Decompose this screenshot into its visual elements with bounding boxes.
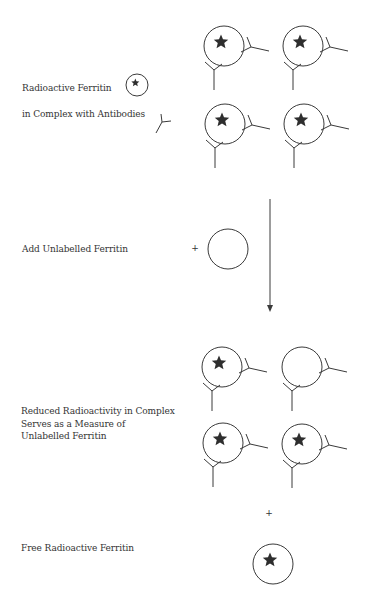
antibody-arm [161, 114, 162, 122]
antibody-arm [283, 460, 292, 468]
antibody-icon-bottom [206, 140, 223, 168]
legend-icons [126, 74, 171, 133]
antibody-ferritin-complex [282, 424, 347, 488]
antibody-icon-right [240, 434, 268, 449]
initial-complexes [204, 26, 349, 168]
antibody-arm [283, 383, 292, 391]
antibody-icon-bottom [284, 62, 301, 90]
antibody-arm [203, 383, 212, 391]
antibody-arm [325, 435, 329, 445]
radioactive-ferritin-icon [205, 104, 245, 144]
antibody-arm [248, 115, 252, 125]
radioactive-ferritin-icon [202, 347, 242, 387]
legend-radioactive-ferritin-icon [126, 74, 148, 96]
antibody-ferritin-complex [282, 347, 347, 411]
antibody-stem [251, 47, 269, 51]
antibody-icon-right [319, 358, 347, 373]
ferritin-assay-diagram: ++ Radioactive Ferritin in Complex with … [0, 0, 371, 606]
antibody-stem [329, 368, 347, 372]
antibody-stem [156, 122, 162, 133]
antibody-icon-right [319, 435, 347, 450]
label-add-unlabelled-ferritin: Add Unlabelled Ferritin [22, 243, 128, 256]
unlabelled-ferritin-icon [208, 229, 248, 269]
antibody-stem [331, 125, 349, 129]
antibody-icon-right [321, 115, 349, 130]
antibody-ferritin-complex [284, 104, 349, 168]
radioactive-star-icon [294, 112, 308, 126]
antibody-arm [326, 37, 330, 47]
antibody-ferritin-complex [203, 423, 268, 487]
antibody-icon-bottom [204, 459, 221, 487]
antibody-stem [250, 444, 268, 448]
label-reduced-line-2: Serves as a Measure of [21, 418, 175, 431]
antibody-arm [285, 140, 294, 148]
radioactive-star-icon [214, 34, 228, 48]
ferritin-circle-icon [282, 347, 322, 387]
free-ferritin-circle [253, 544, 293, 584]
plus-sign: + [265, 508, 273, 518]
antibody-icon-bottom [285, 140, 302, 168]
plus-signs: ++ [191, 243, 273, 518]
plus-sign: + [191, 243, 199, 253]
label-in-complex-with-antibodies: in Complex with Antibodies [22, 108, 145, 121]
label-reduced-line-1: Reduced Radioactivity in Complex [21, 405, 175, 418]
antibody-arm [242, 125, 252, 130]
radioactive-star-icon [215, 112, 229, 126]
antibody-arm [204, 459, 213, 467]
radioactive-star-icon [293, 34, 307, 48]
unlabelled-ferritin-circle [208, 229, 248, 269]
antibody-icon-bottom [203, 383, 220, 411]
antibody-icon-right [239, 358, 267, 373]
radioactive-star-icon [131, 79, 139, 87]
legend-antibody-icon [156, 114, 171, 133]
antibody-icon-right [241, 37, 269, 52]
radioactive-star-icon [292, 432, 306, 446]
radioactive-star-icon [213, 431, 227, 445]
antibody-arm [325, 358, 329, 368]
antibody-stem [330, 47, 348, 51]
antibody-icon-bottom [205, 62, 222, 90]
antibody-arm [320, 47, 330, 52]
radioactive-star-icon [263, 552, 277, 566]
radioactive-ferritin-icon [284, 104, 324, 144]
radioactive-star-icon [212, 355, 226, 369]
antibody-icon-bottom [283, 383, 300, 411]
radioactive-ferritin-icon [203, 423, 243, 463]
antibody-arm [206, 140, 215, 148]
radioactive-ferritin-icon [204, 26, 244, 66]
antibody-arm [162, 121, 171, 122]
antibody-arm [284, 62, 293, 70]
antibody-stem [249, 368, 267, 372]
antibody-ferritin-complex [283, 26, 348, 90]
final-complexes [202, 347, 347, 488]
antibody-ferritin-complex [205, 104, 270, 168]
antibody-stem [252, 125, 270, 129]
antibody-arm [327, 115, 331, 125]
free-radioactive-ferritin-icon [253, 544, 293, 584]
antibody-icon-right [242, 115, 270, 130]
antibody-arm [205, 62, 214, 70]
antibody-icon-bottom [283, 460, 300, 488]
antibody-arm [319, 445, 329, 450]
antibody-arm [246, 434, 250, 444]
antibody-arm [321, 125, 331, 130]
antibody-ferritin-complex [202, 347, 267, 411]
antibody-stem [329, 445, 347, 449]
radioactive-ferritin-icon [282, 424, 322, 464]
down-arrow-icon [267, 199, 273, 312]
arrow-head-icon [267, 305, 273, 312]
antibody-ferritin-complex [204, 26, 269, 90]
unlabelled-ferritin-icon [282, 347, 322, 387]
ferritin-circle-icon [208, 229, 248, 269]
antibody-arm [241, 47, 251, 52]
label-reduced-line-3: Unlabelled Ferritin [21, 430, 175, 443]
antibody-arm [239, 368, 249, 373]
antibody-arm [240, 444, 250, 449]
antibody-arm [247, 37, 251, 47]
label-reduced-radioactivity: Reduced Radioactivity in Complex Serves … [21, 405, 175, 443]
antibody-icon-right [320, 37, 348, 52]
label-free-radioactive-ferritin: Free Radioactive Ferritin [21, 542, 134, 555]
antibody-arm [319, 368, 329, 373]
radioactive-ferritin-icon [283, 26, 323, 66]
label-radioactive-ferritin: Radioactive Ferritin [22, 82, 111, 95]
